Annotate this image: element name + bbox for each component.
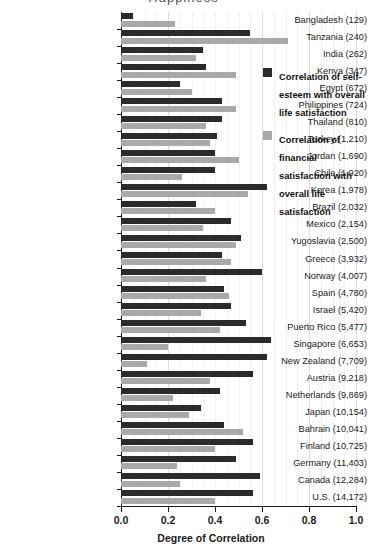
bar-financial-satisfaction [121, 242, 236, 248]
y-axis-label: Netherlands (9,869) [251, 390, 367, 400]
bar-self-esteem [121, 286, 224, 292]
bar-self-esteem [121, 371, 253, 377]
y-axis-label: Tanzania (240) [251, 32, 367, 42]
bar-financial-satisfaction [121, 259, 231, 265]
bar-self-esteem [121, 81, 180, 87]
x-axis-tick-label: 0.6 [242, 514, 282, 526]
y-axis-label: Austria (9,218) [251, 373, 367, 383]
y-axis-label: Korea (1,978) [251, 185, 367, 195]
y-axis-label: Egypt (672) [251, 83, 367, 93]
x-axis-tick [356, 507, 357, 512]
bar-financial-satisfaction [121, 106, 236, 112]
bar-self-esteem [121, 167, 215, 173]
bar-financial-satisfaction [121, 412, 189, 418]
x-axis-tick [168, 507, 169, 512]
x-axis-tick-label: 0.4 [195, 514, 235, 526]
x-axis-tick-label: 0.2 [148, 514, 188, 526]
bar-self-esteem [121, 218, 231, 224]
bar-self-esteem [121, 354, 267, 360]
bar-financial-satisfaction [121, 276, 206, 282]
x-axis-tick [309, 507, 310, 512]
bar-financial-satisfaction [121, 123, 206, 129]
bar-self-esteem [121, 337, 271, 343]
bar-self-esteem [121, 303, 231, 309]
bar-financial-satisfaction [121, 21, 175, 27]
y-axis-label: Bahrain (10,041) [251, 424, 367, 434]
bar-self-esteem [121, 13, 133, 19]
bar-self-esteem [121, 439, 253, 445]
bar-financial-satisfaction [121, 208, 215, 214]
bar-financial-satisfaction [121, 344, 168, 350]
bar-self-esteem [121, 150, 215, 156]
bar-self-esteem [121, 269, 262, 275]
bar-self-esteem [121, 47, 203, 53]
bar-financial-satisfaction [121, 293, 229, 299]
y-axis-label: Mexico (2,154) [251, 219, 367, 229]
x-axis-tick [215, 507, 216, 512]
bar-financial-satisfaction [121, 140, 210, 146]
bar-financial-satisfaction [121, 395, 173, 401]
bar-financial-satisfaction [121, 378, 210, 384]
y-axis-label: Israel (5,420) [251, 305, 367, 315]
y-axis-label: Brazil (2,032) [251, 202, 367, 212]
y-axis-label: Bangladesh (129) [251, 15, 367, 25]
bar-self-esteem [121, 133, 217, 139]
bar-financial-satisfaction [121, 89, 192, 95]
y-axis-label: Yugoslavia (2,500) [251, 236, 367, 246]
bar-self-esteem [121, 30, 250, 36]
bar-financial-satisfaction [121, 310, 201, 316]
x-axis-line [121, 506, 357, 507]
y-axis-label: Thailand (810) [251, 117, 367, 127]
bar-self-esteem [121, 64, 206, 70]
bar-self-esteem [121, 98, 222, 104]
bar-self-esteem [121, 456, 236, 462]
y-axis-label: India (262) [251, 49, 367, 59]
y-axis-label: Spain (4,780) [251, 288, 367, 298]
bar-financial-satisfaction [121, 498, 215, 504]
y-axis-label: Japan (10,154) [251, 407, 367, 417]
bar-self-esteem [121, 422, 224, 428]
x-axis-tick [262, 507, 263, 512]
x-axis-tick-label: 0.8 [289, 514, 329, 526]
y-axis-label: Norway (4,007) [251, 271, 367, 281]
y-axis-label: Philippines (724) [251, 100, 367, 110]
bar-financial-satisfaction [121, 463, 177, 469]
bar-self-esteem [121, 320, 246, 326]
y-axis-label: Chile (1,920) [251, 168, 367, 178]
bar-financial-satisfaction [121, 157, 239, 163]
y-axis-label: Canada (12,284) [251, 475, 367, 485]
bar-self-esteem [121, 235, 241, 241]
x-axis-tick-label: 1.0 [336, 514, 372, 526]
x-axis-tick [121, 507, 122, 512]
x-axis-title: Degree of Correlation [0, 532, 367, 544]
bar-financial-satisfaction [121, 225, 203, 231]
bar-self-esteem [121, 473, 260, 479]
bar-self-esteem [121, 490, 253, 496]
bar-financial-satisfaction [121, 174, 182, 180]
bar-financial-satisfaction [121, 55, 196, 61]
bar-self-esteem [121, 388, 220, 394]
x-axis-tick-label: 0.0 [101, 514, 141, 526]
bar-financial-satisfaction [121, 72, 236, 78]
bar-self-esteem [121, 184, 267, 190]
y-axis-label: U.S. (14,172) [251, 492, 367, 502]
bar-self-esteem [121, 252, 222, 258]
bar-financial-satisfaction [121, 446, 215, 452]
bar-financial-satisfaction [121, 327, 220, 333]
bar-self-esteem [121, 116, 222, 122]
y-axis-label: Finland (10,725) [251, 441, 367, 451]
y-axis-label: Greece (3,932) [251, 254, 367, 264]
y-axis-label: Singapore (6,653) [251, 339, 367, 349]
y-axis-label: Puerto Rico (5,477) [251, 322, 367, 332]
bar-financial-satisfaction [121, 429, 243, 435]
bar-self-esteem [121, 201, 196, 207]
bar-financial-satisfaction [121, 361, 147, 367]
bar-self-esteem [121, 405, 201, 411]
chart-title-truncated: Happiness [0, 0, 367, 9]
y-axis-label: Germany (11,403) [251, 458, 367, 468]
chart-title-text: Happiness [148, 0, 218, 4]
x-axis-title-text: Degree of Correlation [157, 532, 264, 544]
y-axis-label: New Zealand (7,709) [251, 356, 367, 366]
bar-financial-satisfaction [121, 191, 248, 197]
